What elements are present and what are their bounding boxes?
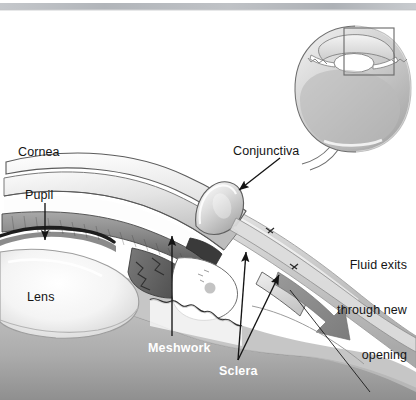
fluid-exits-line-2: through new <box>311 303 407 318</box>
opening-detail-dot <box>205 283 216 294</box>
conjunctiva-label: Conjunctiva <box>233 144 299 158</box>
inset-lens <box>334 54 374 73</box>
lens-label: Lens <box>27 290 55 304</box>
scan-band-edge <box>0 9 416 10</box>
fluid-exits-line-1: Fluid exits <box>311 258 407 273</box>
fluid-exits-line-3: opening <box>311 348 407 363</box>
eye-cross-section-figure: Cornea Pupil Lens Conjunctiva Meshwork S… <box>0 0 416 400</box>
sclera-label: Sclera <box>219 364 258 378</box>
inset-optic-nerve <box>302 147 338 170</box>
cornea-label: Cornea <box>18 145 60 159</box>
pupil-label: Pupil <box>25 188 53 202</box>
inset-eye-diagram <box>295 26 411 170</box>
conjunctiva-leader <box>239 158 280 190</box>
fluid-exits-label: Fluid exits through new opening <box>311 228 407 393</box>
meshwork-label: Meshwork <box>148 341 211 355</box>
scan-band <box>0 3 416 9</box>
